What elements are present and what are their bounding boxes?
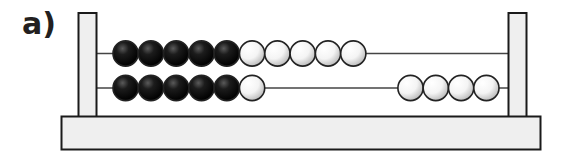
white-bead bbox=[474, 75, 499, 100]
black-bead bbox=[164, 41, 189, 66]
white-bead bbox=[398, 75, 423, 100]
abacus-base bbox=[62, 117, 541, 150]
white-bead bbox=[341, 41, 366, 66]
black-bead bbox=[138, 75, 163, 100]
right-post bbox=[509, 13, 527, 117]
white-bead bbox=[449, 75, 474, 100]
white-bead bbox=[290, 41, 315, 66]
white-bead bbox=[240, 75, 265, 100]
white-bead bbox=[240, 41, 265, 66]
black-bead bbox=[113, 41, 138, 66]
black-bead bbox=[138, 41, 163, 66]
white-bead bbox=[423, 75, 448, 100]
left-post bbox=[79, 13, 97, 117]
black-bead bbox=[113, 75, 138, 100]
black-bead bbox=[164, 75, 189, 100]
abacus-diagram bbox=[0, 0, 568, 156]
white-bead bbox=[315, 41, 340, 66]
black-bead bbox=[189, 41, 214, 66]
black-bead bbox=[189, 75, 214, 100]
beads-group bbox=[113, 41, 499, 101]
black-bead bbox=[214, 75, 239, 100]
white-bead bbox=[265, 41, 290, 66]
black-bead bbox=[214, 41, 239, 66]
